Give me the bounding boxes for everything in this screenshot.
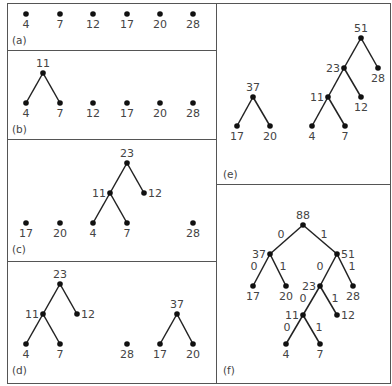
- tree-node: [334, 312, 340, 318]
- tree-edge: [160, 314, 177, 344]
- tree-node: [57, 281, 63, 287]
- tree-edge: [177, 314, 193, 344]
- tree-edge: [237, 97, 253, 126]
- edge-bit-label: 1: [349, 260, 356, 273]
- tree-node: [57, 100, 63, 106]
- node-weight-label: 37: [246, 81, 260, 94]
- tree-edge: [110, 193, 127, 223]
- tree-node: [23, 220, 29, 226]
- edge-bit-label: 1: [280, 260, 287, 273]
- tree-node: [23, 11, 29, 17]
- node-weight-label: 37: [170, 298, 184, 311]
- tree-node: [283, 283, 289, 289]
- tree-node: [309, 123, 315, 129]
- tree-edge: [43, 284, 60, 314]
- node-weight-label: 7: [57, 348, 64, 361]
- node-weight-label: 23: [120, 147, 134, 160]
- tree-node: [317, 341, 323, 347]
- tree-node: [334, 251, 340, 257]
- node-weight-label: 7: [317, 348, 324, 361]
- outer-border: [8, 4, 391, 384]
- node-weight-label: 4: [23, 107, 30, 120]
- tree-node: [250, 94, 256, 100]
- tree-node: [300, 222, 306, 228]
- node-weight-label: 28: [120, 348, 134, 361]
- node-weight-label: 4: [23, 348, 30, 361]
- tree-edge: [361, 38, 378, 68]
- node-weight-label: 51: [354, 22, 368, 35]
- tree-node: [375, 65, 381, 71]
- tree-edge: [328, 97, 345, 126]
- edge-bit-label: 1: [321, 228, 328, 241]
- tree-node: [157, 11, 163, 17]
- node-weight-label: 12: [86, 18, 100, 31]
- tree-node: [267, 123, 273, 129]
- node-weight-label: 17: [153, 348, 167, 361]
- node-weight-label: 17: [246, 290, 260, 303]
- panel-f: 883751172023281112470101010101(f): [223, 209, 360, 376]
- tree-node: [341, 65, 347, 71]
- tree-node: [124, 220, 130, 226]
- tree-node: [23, 100, 29, 106]
- tree-edge: [26, 73, 43, 103]
- node-weight-label: 28: [346, 290, 360, 303]
- edge-bit-label: 0: [317, 260, 324, 273]
- tree-node: [317, 283, 323, 289]
- tree-node: [141, 190, 147, 196]
- node-weight-label: 4: [309, 130, 316, 143]
- tree-node: [107, 190, 113, 196]
- panel-label: (e): [223, 168, 238, 180]
- node-weight-label: 4: [90, 227, 97, 240]
- node-weight-label: 28: [186, 227, 200, 240]
- tree-node: [190, 220, 196, 226]
- tree-node: [350, 283, 356, 289]
- panel-a: 4712172028(a): [12, 11, 200, 46]
- edge-bit-label: 1: [332, 292, 339, 305]
- node-weight-label: 20: [279, 290, 293, 303]
- node-weight-label: 28: [186, 18, 200, 31]
- node-weight-label: 7: [124, 227, 131, 240]
- tree-node: [57, 220, 63, 226]
- tree-edge: [60, 284, 77, 314]
- tree-edge: [253, 97, 270, 126]
- tree-node: [325, 94, 331, 100]
- node-weight-label: 11: [310, 91, 324, 104]
- tree-edge: [127, 163, 144, 193]
- tree-node: [40, 311, 46, 317]
- node-weight-label: 20: [53, 227, 67, 240]
- panel-frame: [7, 3, 391, 384]
- tree-node: [124, 160, 130, 166]
- tree-node: [157, 341, 163, 347]
- panel-b: 114712172028(b): [12, 57, 200, 135]
- panels: 4712172028(a)114712172028(b)231112471720…: [12, 11, 385, 376]
- tree-node: [190, 100, 196, 106]
- node-weight-label: 88: [296, 209, 310, 222]
- node-weight-label: 23: [53, 268, 67, 281]
- node-weight-label: 20: [153, 18, 167, 31]
- tree-node: [190, 11, 196, 17]
- tree-node: [57, 341, 63, 347]
- edge-bit-label: 0: [284, 321, 291, 334]
- node-weight-label: 4: [283, 348, 290, 361]
- panel-label: (a): [12, 34, 27, 46]
- panel-d: 2311124728371720(d): [12, 268, 200, 376]
- tree-node: [234, 123, 240, 129]
- panel-label: (c): [12, 243, 26, 255]
- node-weight-label: 12: [341, 309, 355, 322]
- tree-node: [267, 251, 273, 257]
- edge-bit-label: 0: [278, 228, 285, 241]
- node-weight-label: 20: [186, 348, 200, 361]
- node-weight-label: 17: [120, 107, 134, 120]
- node-weight-label: 28: [371, 72, 385, 85]
- node-weight-label: 17: [230, 130, 244, 143]
- tree-node: [190, 341, 196, 347]
- tree-node: [40, 70, 46, 76]
- node-weight-label: 11: [25, 308, 39, 321]
- node-weight-label: 4: [23, 18, 30, 31]
- node-weight-label: 23: [326, 62, 340, 75]
- tree-node: [124, 11, 130, 17]
- edge-bit-label: 0: [300, 292, 307, 305]
- node-weight-label: 11: [92, 187, 106, 200]
- tree-node: [124, 341, 130, 347]
- tree-node: [90, 11, 96, 17]
